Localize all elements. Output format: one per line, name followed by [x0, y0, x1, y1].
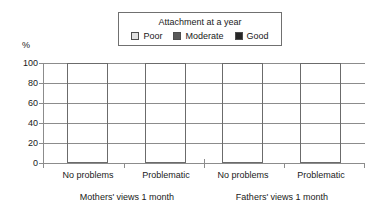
x-group-label-mothers: Mothers' views 1 month: [80, 192, 174, 203]
x-category-label-mothers-no-problems: No problems: [62, 170, 113, 181]
legend-label-moderate: Moderate: [185, 31, 223, 41]
gridline-40: 40: [43, 123, 365, 124]
y-tick-label-100: 100: [12, 59, 38, 68]
plot-area: 100 80 60 40 20 0: [43, 63, 365, 163]
bar-outline-mothers-problematic: [145, 63, 186, 163]
gridline-60: 60: [43, 103, 365, 104]
gridline-100: 100: [43, 63, 365, 64]
legend-swatch-good-icon: [235, 32, 243, 40]
x-category-label-mothers-problematic: Problematic: [142, 170, 190, 181]
legend-title: Attachment at a year: [119, 16, 281, 28]
y-tick-mark-100: [39, 63, 43, 64]
chart-legend: Attachment at a year Poor Moderate Good: [118, 12, 282, 46]
x-category-label-fathers-problematic: Problematic: [297, 170, 345, 181]
legend-label-poor: Poor: [143, 31, 162, 41]
x-group-label-fathers: Fathers' views 1 month: [236, 192, 328, 203]
y-tick-mark-80: [39, 83, 43, 84]
legend-entries: Poor Moderate Good: [119, 31, 281, 41]
gridline-20: 20: [43, 143, 365, 144]
y-tick-label-60: 60: [12, 99, 38, 108]
legend-swatch-moderate-icon: [173, 32, 181, 40]
x-tick-1: [124, 163, 125, 168]
legend-entry-moderate: Moderate: [173, 31, 223, 41]
gridline-80: 80: [43, 83, 365, 84]
y-tick-mark-20: [39, 143, 43, 144]
y-tick-mark-40: [39, 123, 43, 124]
legend-entry-good: Good: [235, 31, 269, 41]
x-tick-3: [284, 163, 285, 168]
x-category-label-fathers-no-problems: No problems: [217, 170, 268, 181]
x-tick-end: [364, 163, 365, 168]
y-tick-label-40: 40: [12, 119, 38, 128]
y-tick-label-0: 0: [12, 159, 38, 168]
legend-swatch-poor-icon: [131, 32, 139, 40]
legend-entry-poor: Poor: [131, 31, 162, 41]
y-axis-unit-label: %: [22, 40, 30, 50]
bar-outline-mothers-no-problems: [67, 63, 108, 163]
bar-outline-fathers-problematic: [300, 63, 341, 163]
y-tick-label-20: 20: [12, 139, 38, 148]
x-tick-start: [43, 163, 44, 168]
y-tick-mark-60: [39, 103, 43, 104]
y-tick-label-80: 80: [12, 79, 38, 88]
bar-outline-fathers-no-problems: [222, 63, 263, 163]
legend-label-good: Good: [247, 31, 269, 41]
x-tick-group-separator: [204, 159, 205, 168]
stacked-bar-chart: Attachment at a year Poor Moderate Good …: [0, 0, 390, 217]
